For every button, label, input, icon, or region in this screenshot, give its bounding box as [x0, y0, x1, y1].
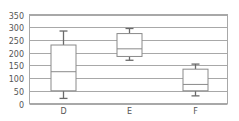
y-tick-label: 50	[14, 88, 24, 97]
y-axis: 050100150200250300350	[9, 12, 24, 110]
x-tick-label: D	[60, 107, 66, 116]
x-tick-label: E	[127, 107, 132, 116]
y-tick-label: 350	[9, 12, 24, 21]
y-tick-label: 100	[9, 75, 24, 84]
boxes	[51, 28, 208, 98]
y-tick-label: 200	[9, 50, 24, 59]
iqr-box	[51, 45, 76, 91]
y-tick-label: 0	[19, 101, 24, 110]
box-F	[183, 64, 208, 96]
box-plot-chart: 050100150200250300350 DEF	[0, 0, 239, 121]
box-E	[117, 28, 142, 60]
x-tick-label: F	[193, 107, 198, 116]
y-tick-label: 250	[9, 37, 24, 46]
y-tick-label: 150	[9, 62, 24, 71]
x-axis: DEF	[60, 107, 198, 116]
iqr-box	[117, 34, 142, 57]
y-tick-label: 300	[9, 24, 24, 33]
iqr-box	[183, 69, 208, 91]
box-D	[51, 31, 76, 98]
